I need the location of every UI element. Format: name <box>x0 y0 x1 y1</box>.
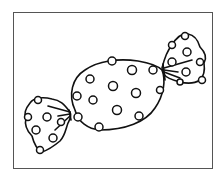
polka-dots <box>25 33 206 154</box>
candy-icon <box>0 0 223 177</box>
illustration-canvas <box>0 0 223 177</box>
